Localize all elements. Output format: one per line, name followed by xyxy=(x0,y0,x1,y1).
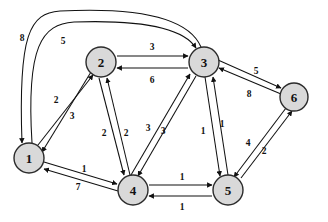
node-2[interactable]: 2 xyxy=(86,47,116,77)
edge-weight-6-3: 8 xyxy=(247,89,252,99)
edge-weight-6-5: 4 xyxy=(246,138,251,148)
edge-3-to-5 xyxy=(205,77,220,176)
node-6[interactable]: 6 xyxy=(280,83,308,111)
edge-3-to-6 xyxy=(218,60,281,88)
edge-1-to-3 xyxy=(31,22,196,143)
edge-weight-1-2: 2 xyxy=(54,95,59,105)
node-label-1: 1 xyxy=(26,151,33,166)
edge-weight-4-1: 7 xyxy=(76,182,81,192)
node-label-3: 3 xyxy=(201,55,208,70)
edge-weight-3-5: 1 xyxy=(201,126,206,136)
edge-weight-2-3: 3 xyxy=(150,42,155,52)
node-label-6: 6 xyxy=(291,90,298,105)
node-1[interactable]: 1 xyxy=(14,143,44,173)
edge-weight-1-4: 1 xyxy=(82,164,87,174)
edge-weight-5-4: 1 xyxy=(180,202,185,212)
edge-weight-3-2: 6 xyxy=(150,75,155,85)
edge-weight-4-2: 2 xyxy=(124,128,129,138)
graph-diagram: 85233622331117115842 123456 xyxy=(0,0,328,222)
edge-1-to-4 xyxy=(44,162,117,184)
node-label-2: 2 xyxy=(98,55,105,70)
edge-6-to-5 xyxy=(234,108,286,177)
edge-4-to-3 xyxy=(131,74,190,175)
graph-canvas: 85233622331117115842 123456 xyxy=(0,0,328,222)
edge-2-to-1 xyxy=(42,72,91,152)
edge-4-to-2 xyxy=(107,78,130,175)
edge-weight-5-6: 2 xyxy=(262,146,267,156)
node-5[interactable]: 5 xyxy=(213,175,243,205)
node-label-5: 5 xyxy=(225,183,232,198)
node-4[interactable]: 4 xyxy=(118,175,148,205)
node-3[interactable]: 3 xyxy=(189,47,219,77)
edge-1-to-2 xyxy=(38,75,93,145)
edge-weight-3-6: 5 xyxy=(254,66,259,76)
node-label-4: 4 xyxy=(130,183,137,198)
edge-2-to-4 xyxy=(99,78,124,175)
edge-weight-1-3: 5 xyxy=(61,36,66,46)
edge-weight-3-1: 8 xyxy=(20,33,25,43)
edge-weight-2-1: 3 xyxy=(70,111,75,121)
edge-weight-5-3: 1 xyxy=(220,119,225,129)
edge-weight-4-3: 3 xyxy=(146,123,151,133)
edge-weight-2-4: 2 xyxy=(102,128,107,138)
edge-weight-4-5: 1 xyxy=(180,172,185,182)
edge-weight-3-4: 3 xyxy=(161,126,166,136)
